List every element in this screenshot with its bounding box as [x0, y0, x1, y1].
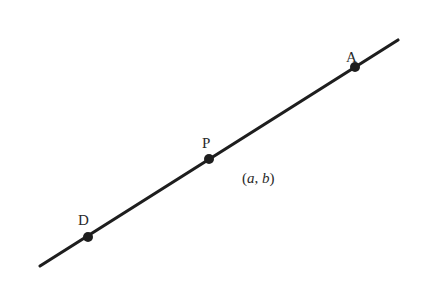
label-p: P: [202, 135, 210, 151]
coord-close-paren: ): [270, 170, 275, 187]
label-d: D: [78, 212, 89, 228]
diagram-canvas: A P D (a, b): [0, 0, 435, 301]
coordinate-label: (a, b): [242, 170, 275, 187]
label-a: A: [346, 49, 357, 65]
point-d: [83, 232, 93, 242]
line-through-points: [40, 40, 398, 266]
coord-separator: ,: [255, 170, 263, 186]
line-diagram: A P D (a, b): [0, 0, 435, 301]
coord-a: a: [247, 170, 255, 186]
point-p: [204, 154, 214, 164]
